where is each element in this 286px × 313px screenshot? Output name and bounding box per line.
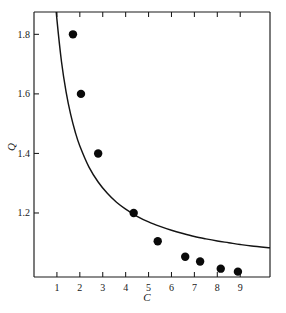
data-point bbox=[234, 267, 242, 275]
data-point bbox=[77, 90, 85, 98]
x-tick-label-6: 6 bbox=[169, 282, 174, 293]
x-tick-label-1: 1 bbox=[54, 282, 59, 293]
x-axis-title: C bbox=[143, 291, 151, 303]
y-tick-label-1.4: 1.4 bbox=[18, 148, 31, 159]
data-point bbox=[196, 257, 204, 265]
figure-background bbox=[0, 0, 286, 313]
data-point bbox=[69, 30, 77, 38]
y-tick-label-1.2: 1.2 bbox=[18, 207, 31, 218]
x-tick-label-9: 9 bbox=[238, 282, 243, 293]
scatter-plot-figure: 123456789 1.21.41.61.8 Q C bbox=[0, 0, 286, 313]
data-point bbox=[94, 149, 102, 157]
chart-canvas: 123456789 1.21.41.61.8 Q C bbox=[0, 0, 286, 313]
data-point bbox=[154, 237, 162, 245]
x-tick-label-2: 2 bbox=[77, 282, 82, 293]
data-point bbox=[129, 209, 137, 217]
y-tick-label-1.6: 1.6 bbox=[18, 88, 31, 99]
x-tick-label-8: 8 bbox=[215, 282, 220, 293]
y-axis-title: Q bbox=[5, 143, 17, 151]
x-tick-label-7: 7 bbox=[192, 282, 197, 293]
data-point bbox=[217, 264, 225, 272]
y-tick-label-1.8: 1.8 bbox=[18, 29, 31, 40]
data-point bbox=[181, 253, 189, 261]
x-tick-label-4: 4 bbox=[123, 282, 128, 293]
x-tick-label-3: 3 bbox=[100, 282, 105, 293]
